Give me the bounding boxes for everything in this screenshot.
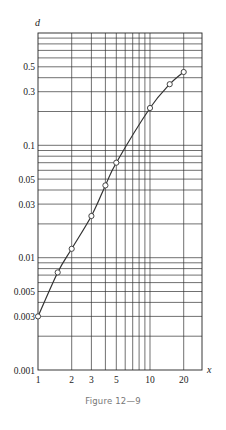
x-tick-label: 3 xyxy=(89,375,94,385)
x-tick-label: 1 xyxy=(36,375,41,385)
y-tick-label: 0.3 xyxy=(23,87,35,97)
y-tick-label: 0.05 xyxy=(18,175,35,185)
data-point-marker xyxy=(114,160,119,165)
y-tick-label: 0.003 xyxy=(14,312,36,322)
plot-frame xyxy=(38,33,202,370)
y-tick-label: 0.005 xyxy=(14,287,36,297)
y-tick-label: 0.1 xyxy=(23,141,35,151)
x-tick-label: 20 xyxy=(179,375,189,385)
data-point-marker xyxy=(103,183,108,188)
data-point-marker xyxy=(69,246,74,251)
log-log-chart: 0.50.30.10.050.030.010.0050.0030.001 123… xyxy=(0,0,226,390)
data-curve xyxy=(38,72,184,316)
y-tick-label: 0.03 xyxy=(18,200,35,210)
data-point-marker xyxy=(181,69,186,74)
x-tick-label: 5 xyxy=(114,375,119,385)
y-tick-label: 0.001 xyxy=(14,366,36,376)
x-axis-label: x xyxy=(206,364,212,375)
figure-caption: Figure 12—9 xyxy=(0,396,226,406)
data-point-marker xyxy=(167,82,172,87)
y-tick-label: 0.01 xyxy=(18,253,35,263)
y-axis-label: d xyxy=(35,17,41,28)
grid-lines xyxy=(38,33,202,370)
data-point-marker xyxy=(147,105,152,110)
y-axis-tick-labels: 0.50.30.10.050.030.010.0050.0030.001 xyxy=(14,62,36,375)
x-tick-label: 10 xyxy=(145,375,155,385)
data-point-marker xyxy=(89,213,94,218)
data-point-marker xyxy=(55,270,60,275)
data-markers xyxy=(35,69,186,319)
x-axis-tick-labels: 12351020 xyxy=(36,375,189,385)
y-tick-label: 0.5 xyxy=(23,62,35,72)
data-point-marker xyxy=(35,314,40,319)
x-tick-label: 2 xyxy=(69,375,74,385)
